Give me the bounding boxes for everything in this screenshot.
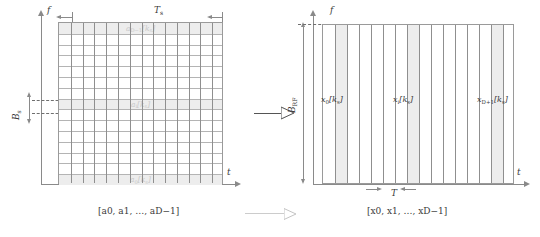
right-height-label: BRF bbox=[288, 98, 297, 113]
left-width-arrow-right bbox=[207, 15, 212, 19]
right-sample-label-sub: D+1 bbox=[482, 99, 494, 105]
right-height-arrow-bottom bbox=[301, 179, 305, 184]
right-sample-period-label: T bbox=[391, 189, 397, 198]
left-grid-col-line bbox=[142, 23, 143, 183]
left-y-axis-arrowhead bbox=[38, 10, 44, 16]
right-sample-label-brk-sub: s bbox=[407, 99, 410, 105]
right-y-axis-label: f bbox=[330, 6, 333, 15]
right-height-label-main: B bbox=[287, 106, 297, 113]
left-height-arrow-bottom bbox=[27, 119, 31, 124]
right-x-axis bbox=[313, 184, 526, 185]
left-grid-col-line bbox=[118, 23, 119, 183]
transform-arrow-shaft bbox=[254, 113, 284, 114]
left-grid-col-line bbox=[94, 23, 95, 183]
left-width-tick-left bbox=[72, 12, 73, 22]
right-grid-col-line bbox=[395, 25, 396, 183]
right-grid-col-line bbox=[479, 25, 480, 183]
left-grid-col-line bbox=[212, 23, 213, 183]
left-row-label-brk-sub: s bbox=[150, 27, 153, 33]
right-grid-col-line bbox=[359, 25, 360, 183]
right-sample-label: xi[ks] bbox=[393, 96, 413, 104]
left-x-axis-arrowhead bbox=[235, 181, 241, 187]
right-y-axis bbox=[313, 12, 314, 184]
right-sample-label-sym: x bbox=[321, 95, 326, 104]
right-grid-col-line bbox=[347, 25, 348, 183]
right-grid-col-line bbox=[467, 25, 468, 183]
right-x-axis-label: t bbox=[517, 168, 521, 177]
left-height-arrow-top bbox=[27, 92, 31, 97]
left-row-label-brk: [k bbox=[137, 100, 144, 109]
left-grid-col-line bbox=[200, 23, 201, 183]
right-sample-label-brk-close: ] bbox=[505, 95, 508, 104]
left-grid-col-line bbox=[177, 23, 178, 183]
left-grid-col-line bbox=[189, 23, 190, 183]
left-height-dim-line bbox=[29, 94, 30, 122]
left-row-label-sub: 0 bbox=[135, 179, 138, 185]
right-sample-label-brk-sub: s bbox=[502, 99, 505, 105]
right-grid-col-line bbox=[431, 25, 432, 183]
left-row-label-brk: [k bbox=[142, 24, 149, 33]
right-sample-label-sym: x bbox=[393, 95, 398, 104]
left-width-label: Ts bbox=[154, 6, 163, 15]
right-grid-col-line bbox=[455, 25, 456, 183]
right-sample-label-brk: [k bbox=[494, 95, 502, 104]
right-sample-label-brk-close: ] bbox=[410, 95, 413, 104]
figure-root: f t Ts Bs aD−1[ks]ai[ks]a0[ks] [a0, a1, … bbox=[0, 0, 540, 237]
left-row-label-brk-close: ] bbox=[148, 175, 151, 184]
right-sample-label-brk-close: ] bbox=[340, 95, 343, 104]
right-grid-col-line bbox=[419, 25, 420, 183]
right-x-axis-arrowhead bbox=[524, 181, 530, 187]
left-height-label: Bs bbox=[12, 110, 21, 120]
left-row-label-brk-close: ] bbox=[147, 100, 150, 109]
left-vector-label: [a0, a1, …, aD−1] bbox=[98, 207, 179, 216]
left-grid-col-line bbox=[106, 23, 107, 183]
right-grid-col-line bbox=[443, 25, 444, 183]
right-y-axis-arrowhead bbox=[310, 10, 316, 16]
left-row-label-sub: D−1 bbox=[130, 27, 142, 33]
right-grid-col-line bbox=[383, 25, 384, 183]
left-y-axis bbox=[41, 12, 42, 184]
right-sample-label-brk: [k bbox=[329, 95, 337, 104]
left-width-label-sub: s bbox=[160, 9, 163, 16]
left-grid-col-line bbox=[165, 23, 166, 183]
left-width-arrow-left bbox=[56, 15, 61, 19]
right-vector-label: [x0, x1, …, xD−1] bbox=[367, 207, 447, 216]
right-grid-col-line bbox=[335, 25, 336, 183]
left-grid-col-line bbox=[130, 23, 131, 183]
left-row-label-brk-sub: s bbox=[145, 179, 148, 185]
left-height-label-main: B bbox=[11, 113, 21, 120]
vector-arrow-shaft bbox=[245, 213, 287, 214]
right-sample-label-sym: x bbox=[477, 95, 482, 104]
vector-arrow-head bbox=[284, 207, 300, 221]
right-grid-col-line bbox=[371, 25, 372, 183]
right-T-arrow-right bbox=[400, 187, 405, 191]
right-height-label-sub: RF bbox=[291, 98, 298, 107]
left-grid-col-line bbox=[71, 23, 72, 183]
left-width-tick-right bbox=[222, 12, 223, 22]
right-sample-label-sub: 0 bbox=[326, 99, 329, 105]
right-height-dim-line bbox=[303, 24, 304, 182]
left-resource-grid: aD−1[ks]ai[ks]a0[ks] bbox=[58, 22, 223, 184]
left-grid-col-line bbox=[83, 23, 84, 183]
left-height-label-sub: s bbox=[15, 110, 22, 113]
left-y-axis-label: f bbox=[47, 6, 50, 15]
left-grid-col-line bbox=[153, 23, 154, 183]
left-x-axis-label: t bbox=[227, 168, 231, 177]
right-sample-label: xD+1[ks] bbox=[477, 96, 508, 104]
right-sample-label-brk-sub: s bbox=[337, 99, 340, 105]
right-T-arrow-left bbox=[377, 187, 382, 191]
right-sample-label: x0[ks] bbox=[321, 96, 343, 104]
